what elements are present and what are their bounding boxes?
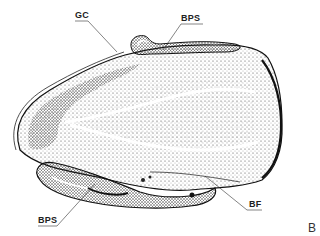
label-bf: BF — [249, 200, 262, 209]
figure-panel: GC BPS BPS BF B — [0, 0, 320, 236]
label-bps-top: BPS — [181, 14, 200, 23]
label-gc: GC — [75, 11, 89, 20]
label-bps-bottom: BPS — [38, 216, 57, 225]
panel-letter: B — [308, 222, 316, 234]
bps-top-structure — [131, 36, 240, 55]
tissue-section-drawing — [0, 0, 320, 236]
gc-leader — [75, 21, 117, 52]
